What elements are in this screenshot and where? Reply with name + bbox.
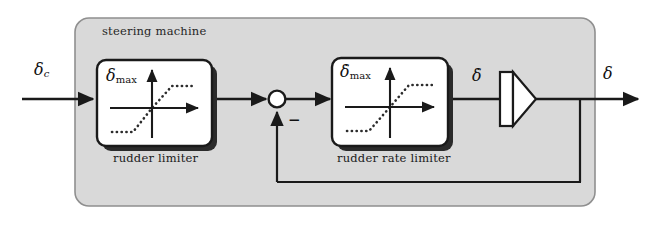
input-signal-subscript: c xyxy=(44,68,50,79)
figure-root: steering machine δc δmax rudder limiter … xyxy=(0,0,655,227)
output-signal-label: δ xyxy=(603,66,613,82)
rudder-rate-limiter-caption: rudder rate limiter xyxy=(337,153,451,165)
rudder-limiter-caption: rudder limiter xyxy=(113,153,198,165)
block-diagram-canvas xyxy=(0,0,655,227)
panel-title: steering machine xyxy=(102,26,206,38)
feedback-minus-sign: − xyxy=(288,113,301,128)
rudder-limiter-inner-subscript: max xyxy=(116,74,137,85)
rudder-rate-limiter-inner-label: δ̇max xyxy=(340,64,371,81)
summing-junction-symbol xyxy=(269,91,286,108)
input-signal-label: δc xyxy=(34,62,49,79)
rudder-limiter-inner-label: δmax xyxy=(106,68,137,85)
rate-signal-label: δ̇ xyxy=(472,68,482,84)
rudder-rate-limiter-inner-subscript: max xyxy=(350,70,371,81)
